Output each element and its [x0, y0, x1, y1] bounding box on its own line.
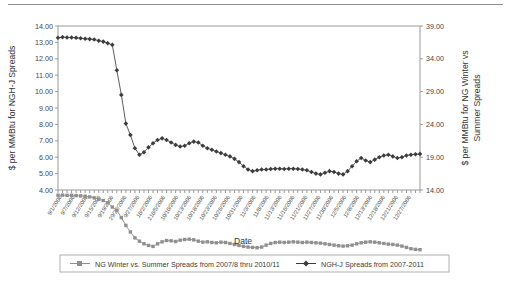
- data-point-marker: [269, 242, 272, 245]
- data-point-marker: [173, 143, 178, 148]
- data-point-marker: [350, 243, 353, 246]
- left-tick-label: 14.00: [35, 22, 53, 31]
- data-point-marker: [413, 152, 418, 157]
- data-point-marker: [364, 240, 367, 243]
- data-point-marker: [387, 242, 390, 245]
- data-point-marker: [182, 143, 187, 148]
- data-point-marker: [214, 149, 219, 154]
- data-point-marker: [328, 243, 331, 246]
- y-axis-title: $ per MMBtu for NGH-J Spreads: [7, 46, 17, 171]
- data-point-marker: [219, 151, 224, 156]
- data-point-marker: [251, 246, 254, 249]
- data-point-marker: [178, 144, 183, 149]
- data-point-marker: [255, 168, 260, 173]
- left-tick-label: 4.00: [39, 186, 53, 195]
- data-point-marker: [138, 239, 141, 242]
- x-axis-ticks: [58, 190, 420, 193]
- data-point-marker: [87, 37, 92, 42]
- series-2: [56, 35, 423, 177]
- data-point-marker: [156, 242, 159, 245]
- data-point-marker: [169, 239, 172, 242]
- data-point-marker: [337, 244, 340, 247]
- data-point-marker: [92, 37, 97, 42]
- data-point-marker: [56, 36, 61, 41]
- data-point-marker: [165, 239, 168, 242]
- data-point-marker: [133, 236, 136, 239]
- data-point-marker: [287, 240, 290, 243]
- right-tick-label: 24.00: [426, 120, 444, 129]
- left-axis-ticks: 4.005.006.007.008.009.0010.0011.0012.001…: [35, 22, 58, 195]
- left-tick-label: 11.00: [36, 71, 53, 80]
- data-point-marker: [310, 241, 313, 244]
- legend: NG Winter vs. Summer Spreads from 2007/8…: [60, 255, 449, 272]
- data-point-marker: [409, 247, 412, 250]
- data-point-marker: [378, 241, 381, 244]
- data-point-marker: [282, 167, 287, 172]
- data-point-marker: [197, 239, 200, 242]
- data-point-marker: [187, 141, 192, 146]
- data-point-marker: [341, 244, 344, 247]
- data-point-marker: [296, 240, 299, 243]
- data-point-marker: [355, 242, 358, 245]
- data-point-marker: [414, 248, 417, 251]
- data-point-marker: [147, 244, 150, 247]
- data-point-marker: [368, 160, 373, 165]
- data-point-marker: [102, 199, 105, 202]
- data-point-marker: [219, 240, 222, 243]
- data-point-marker: [305, 240, 308, 243]
- legend-item-ngh-j[interactable]: NGH-J Spreads from 2007-2011: [296, 260, 424, 269]
- right-tick-label: 29.00: [426, 87, 444, 96]
- data-point-marker: [309, 170, 314, 175]
- data-point-marker: [391, 243, 394, 246]
- data-point-marker: [205, 146, 210, 151]
- data-point-marker: [160, 240, 163, 243]
- legend-item-winter-summer[interactable]: NG Winter vs. Summer Spreads from 2007/8…: [70, 260, 280, 269]
- data-point-marker: [128, 133, 133, 138]
- data-point-marker: [301, 241, 304, 244]
- data-point-marker: [259, 167, 264, 172]
- right-tick-label: 14.00: [426, 186, 444, 195]
- chart-svg: 4.005.006.007.008.009.0010.0011.0012.001…: [0, 0, 509, 286]
- data-point-marker: [110, 43, 115, 48]
- data-point-marker: [210, 148, 215, 153]
- data-point-marker: [210, 241, 213, 244]
- data-point-marker: [400, 155, 405, 160]
- data-point-marker: [291, 166, 296, 171]
- data-point-marker: [56, 194, 59, 197]
- data-point-marker: [83, 36, 88, 41]
- data-point-marker: [292, 240, 295, 243]
- left-tick-label: 7.00: [39, 136, 53, 145]
- data-point-marker: [264, 167, 269, 172]
- data-point-marker: [300, 167, 305, 172]
- left-tick-label: 12.00: [35, 54, 53, 63]
- data-point-marker: [314, 241, 317, 244]
- left-tick-label: 10.00: [35, 87, 53, 96]
- data-point-marker: [336, 171, 341, 176]
- data-point-marker: [115, 209, 118, 212]
- data-point-marker: [61, 193, 64, 196]
- data-point-marker: [274, 241, 277, 244]
- right-tick-label: 39.00: [426, 22, 444, 31]
- data-point-marker: [97, 197, 100, 200]
- data-point-marker: [228, 242, 231, 245]
- data-point-marker: [382, 242, 385, 245]
- data-point-marker: [318, 172, 323, 177]
- data-point-marker: [83, 195, 86, 198]
- data-point-marker: [314, 171, 319, 176]
- data-point-marker: [96, 38, 101, 43]
- data-point-marker: [106, 201, 109, 204]
- data-point-marker: [142, 242, 145, 245]
- data-point-marker: [305, 168, 310, 173]
- data-point-marker: [105, 41, 110, 46]
- data-point-marker: [223, 152, 228, 157]
- data-point-marker: [278, 240, 281, 243]
- data-point-marker: [404, 153, 409, 158]
- data-point-marker: [327, 169, 332, 174]
- data-point-marker: [164, 138, 169, 143]
- data-point-marker: [224, 241, 227, 244]
- data-point-marker: [418, 248, 421, 251]
- data-point-marker: [129, 230, 132, 233]
- data-point-marker: [151, 245, 154, 248]
- series-line: [58, 37, 420, 174]
- right-axis-ticks: 14.0019.0024.0029.0034.0039.00: [420, 22, 444, 195]
